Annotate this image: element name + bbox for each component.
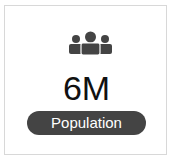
stat-value: 6M (5, 68, 168, 108)
stat-label-badge: Population (27, 111, 146, 135)
people-group-icon (68, 31, 113, 55)
population-stat-card: 6M Population (4, 5, 167, 155)
